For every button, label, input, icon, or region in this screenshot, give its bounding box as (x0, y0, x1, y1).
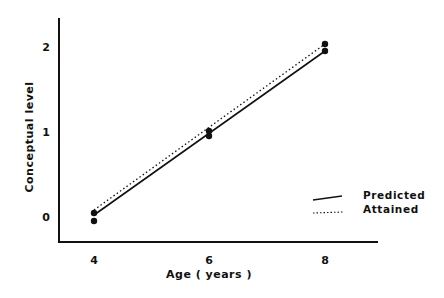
x-tick-8: 8 (321, 254, 329, 267)
x-tick-6: 6 (205, 254, 213, 267)
legend: Predicted Attained (313, 189, 425, 215)
x-tick-4: 4 (90, 254, 98, 267)
y-axis-title: Conceptual level (23, 81, 36, 192)
x-axis-title: Age ( years ) (166, 268, 252, 281)
chart: 0 1 2 4 6 8 Age ( years ) Conceptual lev… (0, 0, 444, 298)
y-tick-0: 0 (42, 211, 50, 224)
legend-predicted-swatch (313, 196, 342, 200)
legend-attained-label: Attained (363, 203, 419, 215)
y-tick-1: 1 (42, 126, 50, 139)
legend-predicted-label: Predicted (363, 189, 425, 201)
series-attained-line (94, 44, 325, 210)
data-point (91, 210, 97, 216)
data-point (206, 133, 212, 139)
data-point (322, 48, 328, 54)
legend-attained-swatch (313, 212, 343, 213)
data-point (322, 41, 328, 47)
data-point (91, 218, 97, 224)
y-tick-2: 2 (42, 41, 50, 54)
